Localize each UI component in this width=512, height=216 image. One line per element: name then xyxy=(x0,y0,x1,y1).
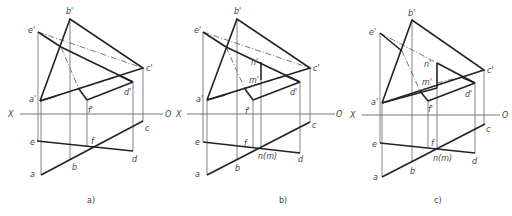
point-label: e' xyxy=(369,28,376,37)
visible-edge xyxy=(380,143,475,153)
point-label: b' xyxy=(234,7,241,16)
visible-edge xyxy=(41,121,143,175)
point-label: d' xyxy=(290,88,297,97)
visible-edge xyxy=(120,76,133,82)
visible-edge xyxy=(286,76,300,82)
point-label: n' xyxy=(251,58,258,67)
panel-caption: b) xyxy=(279,196,287,205)
visible-edge xyxy=(207,95,225,100)
point-label: e' xyxy=(194,26,201,35)
point-label: c' xyxy=(313,64,320,73)
point-label: d xyxy=(132,155,138,164)
x-axis-label: X xyxy=(7,110,14,119)
panel-c: XOb'e'c'n'm'a'd'f'cefn(m)dbac) xyxy=(349,9,508,205)
point-label: a' xyxy=(29,95,36,104)
point-label: a xyxy=(195,170,200,179)
visible-edge xyxy=(461,77,475,83)
visible-edge xyxy=(203,32,226,47)
point-label: d xyxy=(298,155,304,164)
point-label: f' xyxy=(245,107,250,116)
point-label: e xyxy=(372,140,377,149)
point-label: c xyxy=(312,121,317,130)
point-label: a' xyxy=(371,98,378,107)
point-label: a xyxy=(30,170,35,179)
x-axis-label: X xyxy=(175,110,182,119)
point-label: d xyxy=(472,157,478,166)
point-label: m' xyxy=(249,76,259,85)
point-label: c xyxy=(486,125,491,134)
point-label: e xyxy=(30,138,35,147)
visible-edge xyxy=(79,89,87,100)
point-label: c' xyxy=(487,66,494,75)
x-axis-label: X xyxy=(349,111,356,120)
point-label: b xyxy=(72,163,77,172)
point-label: c' xyxy=(146,64,153,73)
panel-caption: c) xyxy=(434,196,442,205)
visible-edge xyxy=(37,141,133,151)
visible-edge xyxy=(380,33,402,51)
point-label: d' xyxy=(124,88,131,97)
point-label: n(m) xyxy=(433,154,452,163)
visible-edge xyxy=(38,32,61,47)
point-label: e' xyxy=(28,26,35,35)
origin-label: O xyxy=(336,110,342,119)
hidden-line xyxy=(380,33,437,63)
point-label: f xyxy=(431,139,435,148)
panel-a: XOb'e'c'a'd'f'cefdbaa) xyxy=(7,7,171,205)
point-label: n(m) xyxy=(258,152,277,161)
projection-diagram: XOb'e'c'a'd'f'cefdbaa)XOb'e'c'n'm'a'd'f'… xyxy=(0,0,512,216)
point-label: b' xyxy=(408,9,415,18)
panel-caption: a) xyxy=(87,196,95,205)
point-label: b' xyxy=(66,7,73,16)
point-label: m' xyxy=(422,78,432,87)
panel-b: XOb'e'c'n'm'a'd'f'cefn(m)dbab) xyxy=(175,7,342,205)
hidden-line xyxy=(402,51,420,91)
point-label: e xyxy=(195,138,200,147)
hidden-line xyxy=(226,47,245,89)
point-label: f xyxy=(91,137,95,146)
point-label: f' xyxy=(428,105,433,114)
origin-label: O xyxy=(165,110,171,119)
point-label: d' xyxy=(465,90,472,99)
visible-edge xyxy=(382,124,485,177)
visible-edge xyxy=(420,91,428,101)
point-label: b xyxy=(235,164,240,173)
point-label: b xyxy=(410,167,415,176)
point-label: a xyxy=(373,173,378,182)
origin-label: O xyxy=(502,111,508,120)
point-label: f' xyxy=(88,106,93,115)
point-label: n' xyxy=(424,60,431,69)
point-label: c xyxy=(145,124,150,133)
point-label: a' xyxy=(196,95,203,104)
visible-edge xyxy=(245,89,253,100)
